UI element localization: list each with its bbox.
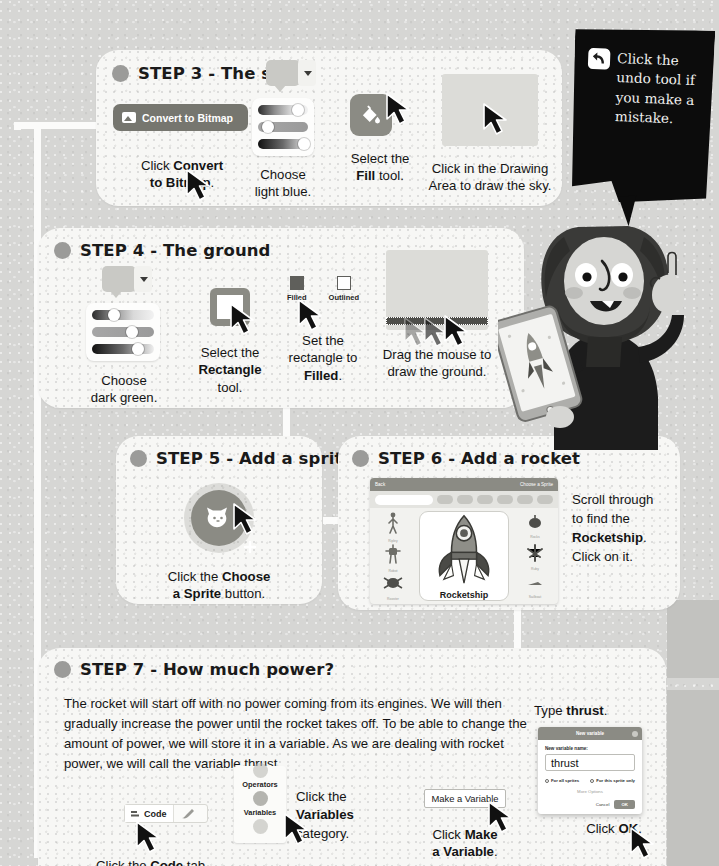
close-icon[interactable]: [632, 731, 638, 737]
color-swatch-button[interactable]: [102, 266, 136, 292]
step4-item-color: Choosedark green.: [76, 266, 172, 407]
library-category-pill[interactable]: [537, 495, 553, 504]
filled-square-icon: [290, 276, 304, 290]
step6-header: STEP 6 - Add a rocket: [352, 449, 680, 468]
library-category-pill[interactable]: [457, 495, 473, 504]
costumes-tab[interactable]: [174, 805, 202, 822]
step6-caption: Scroll throughto find theRocketship.Clic…: [572, 490, 653, 604]
library-header-label: Choose a Sprite: [520, 482, 553, 487]
color-slider-saturation[interactable]: [258, 122, 308, 132]
sprite-thumb[interactable]: Ripley: [386, 512, 400, 543]
sprite-thumb-label: Sailboat: [526, 595, 544, 599]
slider-knob[interactable]: [126, 326, 138, 338]
library-category-pill[interactable]: [517, 495, 533, 504]
sprite-thumb[interactable]: Ruby: [525, 544, 545, 571]
sprite-thumb[interactable]: Rocks: [527, 514, 543, 539]
bitmap-image-icon: [122, 112, 136, 123]
color-swatch-button[interactable]: [266, 60, 300, 86]
sprite-card-rocketship[interactable]: Rocketship: [419, 511, 509, 601]
library-topbar: Back Choose a Sprite: [370, 478, 558, 491]
step3-caption-fill: Select theFill tool.: [334, 150, 426, 185]
chevron-down-icon[interactable]: [298, 60, 316, 86]
slider-knob[interactable]: [262, 121, 274, 133]
sprite-thumb-label: Ruby: [525, 567, 545, 571]
color-slider-brightness[interactable]: [258, 139, 308, 149]
slider-knob[interactable]: [132, 343, 144, 355]
plus-badge-icon: [244, 541, 256, 553]
code-blocks-icon: [131, 810, 141, 818]
cancel-button[interactable]: Cancel: [596, 802, 610, 807]
step5-title: STEP 5 - Add a sprite: [156, 449, 354, 468]
code-tab-label: Code: [144, 809, 167, 819]
step-card-step4: STEP 4 - The ground Choosedark green. Se…: [38, 228, 524, 408]
slider-knob[interactable]: [292, 104, 304, 116]
block-category-column[interactable]: Operators Variables: [234, 766, 286, 843]
sprite-thumb-label: Robot: [384, 569, 402, 573]
radio-for-this-sprite[interactable]: For this sprite only: [590, 778, 635, 783]
speech-bubble-tail: [618, 195, 639, 227]
color-slider-hue[interactable]: [92, 310, 154, 320]
speech-bubble: Click the undo tool if you make a mistak…: [569, 25, 716, 205]
cursor-arrow-variables: [282, 812, 314, 848]
category-label-variables[interactable]: Variables: [244, 808, 276, 817]
color-slider-saturation[interactable]: [92, 327, 154, 337]
outlined-square-icon: [337, 276, 351, 290]
library-category-pill[interactable]: [497, 495, 513, 504]
swatch-pointer: [110, 291, 122, 298]
rocketship-icon: [429, 512, 499, 589]
cursor-arrow-fill: [384, 92, 416, 128]
sprite-library-panel[interactable]: Back Choose a Sprite Ripley: [370, 478, 558, 604]
radio-icon: [545, 779, 549, 783]
step4-caption-rectangle: Select theRectangletool.: [184, 344, 276, 396]
edge-block-top: [667, 600, 719, 678]
color-slider-panel[interactable]: [86, 303, 160, 361]
dialog-footer: Cancel OK: [545, 800, 635, 809]
fill-option-outlined[interactable]: Outlined: [329, 276, 359, 302]
cursor-arrow-drag: [442, 314, 474, 350]
library-category-pill[interactable]: [477, 495, 493, 504]
radio-for-this-sprite-label: For this sprite only: [596, 778, 635, 783]
library-search-input[interactable]: [375, 495, 433, 505]
sprite-thumb[interactable]: Rooster: [382, 574, 404, 601]
ok-button[interactable]: OK: [614, 800, 635, 809]
rooster-sprite-icon: [382, 574, 404, 592]
library-column-right: Rocks Ruby Sailboat: [512, 508, 558, 604]
color-slider-panel[interactable]: [252, 98, 314, 156]
sprite-thumb[interactable]: Robot: [384, 544, 402, 573]
dialog-scope-radios: For all sprites For this sprite only: [545, 778, 635, 783]
cursor-arrow-filled: [296, 298, 328, 334]
category-label-operators[interactable]: Operators: [242, 780, 277, 789]
new-variable-dialog[interactable]: New variable New variable name: thrust F…: [538, 727, 642, 814]
library-back-label[interactable]: Back: [375, 482, 385, 487]
slider-knob[interactable]: [298, 138, 310, 150]
cursor-arrow-drawing-area: [481, 102, 513, 138]
step6-bullet-icon: [352, 450, 369, 467]
library-column-left: Ripley Robot Rooster: [370, 508, 416, 604]
sprite-thumb-label: Ripley: [386, 539, 400, 543]
step7-item-dialog: Type thrust. New variable New variable n…: [534, 702, 664, 838]
color-slider-hue[interactable]: [258, 105, 308, 115]
step7-caption-code: Click the Code tab.: [96, 857, 256, 866]
slider-knob[interactable]: [108, 309, 120, 321]
more-options-link[interactable]: More Options: [545, 789, 635, 794]
step-card-step3: STEP 3 - The sky Convert to Bitmap Click…: [96, 50, 562, 206]
sprite-thumb[interactable]: Sailboat: [526, 576, 544, 599]
convert-to-bitmap-button[interactable]: Convert to Bitmap: [113, 104, 248, 131]
paintbrush-icon: [180, 808, 196, 820]
sprite-thumb-label: Rocks: [527, 535, 543, 539]
step5-item-sprite: Click the Choosea Sprite button.: [116, 490, 322, 603]
library-category-pill[interactable]: [437, 495, 453, 504]
undo-icon: [588, 48, 611, 70]
dialog-body: New variable name: thrust For all sprite…: [538, 740, 642, 814]
step-card-step7: STEP 7 - How much power? The rocket will…: [38, 648, 666, 866]
chevron-down-icon[interactable]: [134, 266, 152, 292]
variable-name-input[interactable]: thrust: [545, 754, 635, 771]
step5-bullet-icon: [130, 450, 147, 467]
radio-for-all-sprites[interactable]: For all sprites: [545, 778, 579, 783]
rocks-sprite-icon: [527, 514, 543, 530]
speech-bubble-text: Click the undo tool if you make a mistak…: [615, 49, 703, 129]
cursor-arrow-convert: [184, 168, 216, 204]
step7-header: STEP 7 - How much power?: [54, 660, 666, 679]
ruby-sprite-icon: [525, 544, 545, 562]
color-slider-brightness[interactable]: [92, 344, 154, 354]
